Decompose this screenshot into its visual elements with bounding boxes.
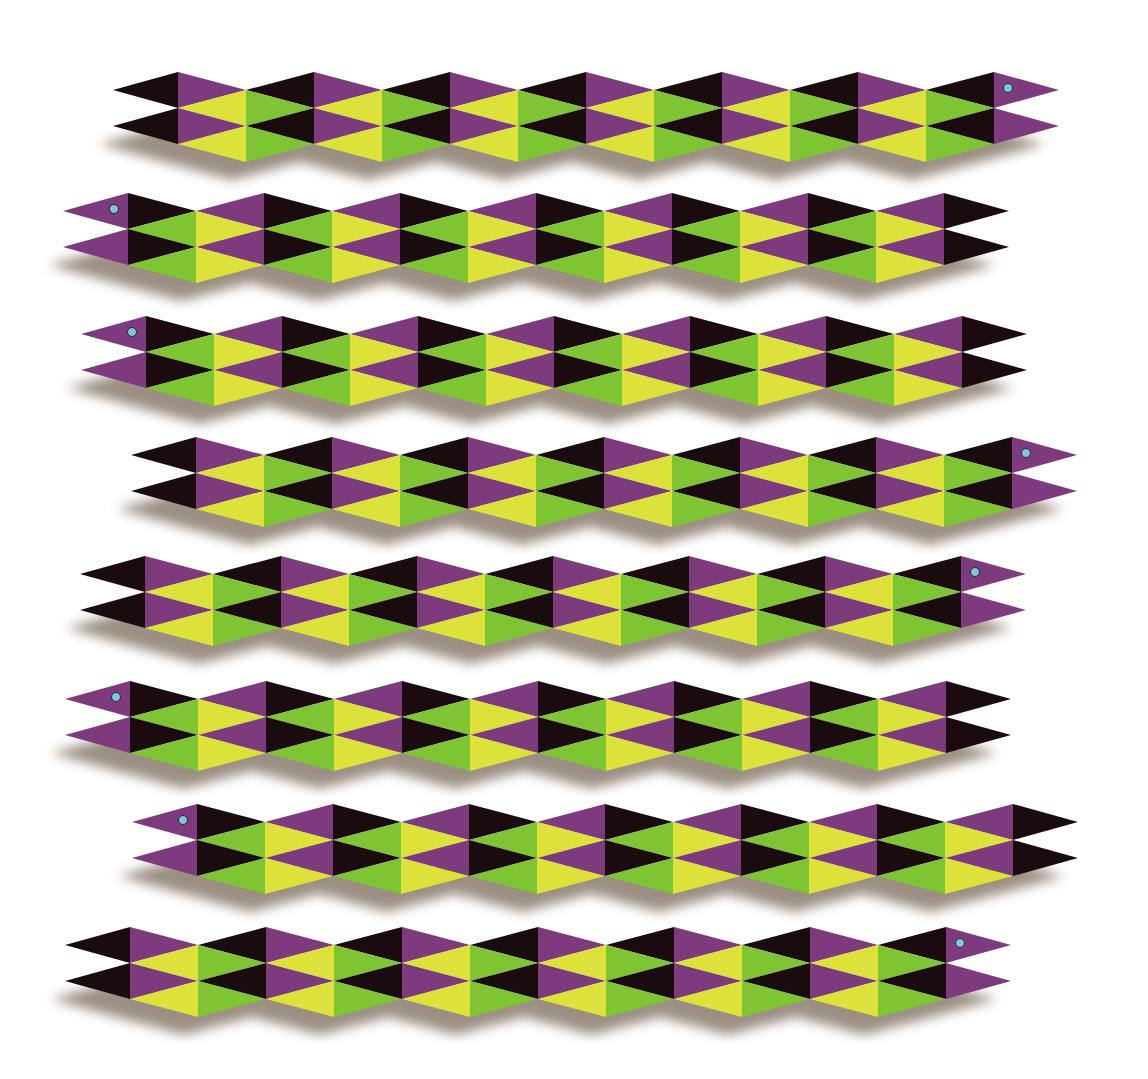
snake-1 [99, 72, 1059, 180]
tail-tip [80, 556, 145, 592]
tail-tip [944, 229, 1009, 265]
snake-eye-icon [1004, 84, 1013, 93]
snake-3 [67, 316, 1027, 424]
snakes-artwork [0, 0, 1148, 1079]
tail-tip [131, 437, 196, 473]
snake-eye-icon [110, 205, 119, 214]
snake-2 [49, 193, 1009, 301]
snake-5 [66, 556, 1026, 664]
tail-tip [1013, 840, 1078, 876]
tail-tip [65, 927, 130, 963]
head-tip [961, 592, 1026, 628]
tail-tip [944, 193, 1009, 229]
tail-tip [962, 352, 1027, 388]
tail-tip [946, 717, 1011, 753]
tail-tip [113, 72, 178, 108]
head-tip [946, 963, 1011, 999]
snake-eye-icon [956, 939, 965, 948]
illusion-canvas: Snakes illusion [0, 0, 1148, 1079]
head-tip [1012, 473, 1077, 509]
snake-7 [118, 804, 1078, 912]
head-tip [994, 108, 1059, 144]
snake-eye-icon [112, 693, 121, 702]
snake-6 [51, 681, 1011, 789]
tail-tip [946, 681, 1011, 717]
tail-tip [1013, 804, 1078, 840]
snake-eye-icon [971, 568, 980, 577]
snake-eye-icon [128, 328, 137, 337]
snake-eye-icon [179, 816, 188, 825]
snake-4 [117, 437, 1077, 545]
tail-tip [962, 316, 1027, 352]
snake-eye-icon [1022, 449, 1031, 458]
snake-8 [51, 927, 1011, 1035]
snakes-group [49, 72, 1078, 1035]
